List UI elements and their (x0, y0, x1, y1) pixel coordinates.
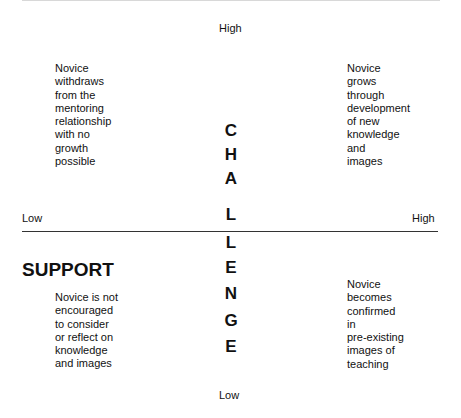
challenge-letter: N (222, 284, 240, 304)
support-high-label: High (412, 212, 435, 224)
challenge-letter: C (222, 121, 240, 141)
quadrant-bottom-left: Novice is not encouraged to consider or … (55, 291, 118, 371)
support-axis-line (22, 231, 438, 232)
challenge-low-label: Low (219, 389, 239, 401)
challenge-high-label: High (219, 22, 242, 34)
challenge-letter: A (222, 169, 240, 189)
challenge-letter: E (222, 337, 240, 357)
challenge-letter: L (222, 205, 240, 225)
challenge-letter: L (222, 233, 240, 253)
challenge-letter: E (222, 258, 240, 278)
top-rule (22, 0, 440, 1)
challenge-letter: H (222, 145, 240, 165)
quadrant-top-left: Novice withdraws from the mentoring rela… (55, 62, 111, 168)
quadrant-bottom-right: Novice becomes confirmed in pre-existing… (347, 278, 404, 371)
support-axis-title: SUPPORT (22, 259, 114, 281)
challenge-letter: G (222, 311, 240, 331)
support-low-label: Low (22, 212, 42, 224)
quadrant-top-right: Novice grows through development of new … (347, 62, 410, 168)
